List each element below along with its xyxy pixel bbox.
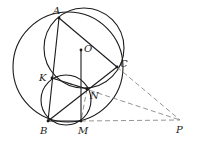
label-M: M — [77, 125, 89, 136]
labels-group: AOCKNBMP — [38, 5, 183, 136]
point-A — [58, 17, 61, 20]
point-N — [86, 88, 89, 91]
dashed-segment-MP — [81, 120, 180, 121]
point-O — [80, 49, 83, 52]
geometry-diagram: AOCKNBMP — [0, 0, 200, 145]
label-C: C — [120, 58, 128, 69]
point-C — [116, 66, 119, 69]
label-K: K — [38, 72, 47, 83]
segment-KN — [52, 78, 87, 89]
label-O: O — [84, 43, 92, 54]
point-M — [80, 120, 83, 123]
label-A: A — [52, 5, 60, 16]
label-N: N — [89, 90, 100, 101]
label-B: B — [39, 125, 47, 136]
dashed-segment-CP — [117, 67, 180, 120]
label-P: P — [175, 124, 183, 135]
point-B — [47, 120, 50, 123]
point-K — [51, 77, 54, 80]
